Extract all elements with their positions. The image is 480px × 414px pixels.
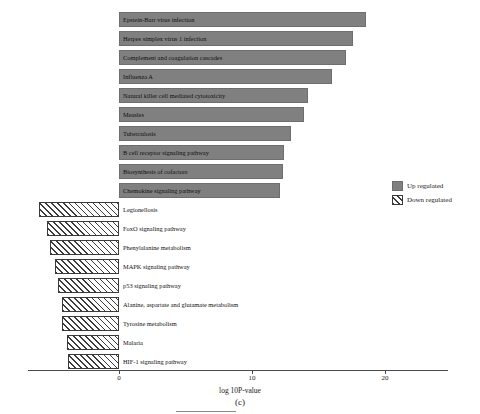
bar-label: Tuberculosis	[123, 126, 156, 141]
bar-label: HIF-1 signaling pathway	[123, 354, 187, 369]
bar-down-8	[68, 354, 119, 369]
legend-swatch-down-icon	[392, 195, 403, 205]
bar-down-4	[58, 278, 119, 293]
x-axis-title: log 10P-value	[0, 386, 480, 395]
bar-down-0	[39, 202, 119, 217]
legend-label-up: Up regulated	[407, 182, 443, 190]
bar-label: Phenylalanine metabolism	[123, 240, 191, 255]
bar-down-1	[47, 221, 119, 236]
bar-down-5	[62, 297, 119, 312]
bar-label: Measles	[123, 107, 144, 122]
x-tick-label-0: 0	[117, 374, 121, 382]
legend-item-up-regulated: Up regulated	[392, 180, 452, 192]
bar-label: Natural killer cell mediated cytotoxicit…	[123, 88, 225, 103]
bar-up-5	[119, 107, 304, 122]
x-tick-label-20: 20	[382, 374, 389, 382]
bar-down-7	[67, 335, 119, 350]
plot-area: Epstein-Barr virus infectionHerpes simpl…	[0, 0, 480, 414]
bar-down-2	[50, 240, 119, 255]
bar-label: Biosynthesis of cofactors	[123, 164, 188, 179]
legend-swatch-up-icon	[392, 181, 403, 191]
bar-label: FoxO signaling pathway	[123, 221, 186, 236]
bar-label: Herpes simplex virus 1 infection	[123, 31, 206, 46]
figure-caption: (c)	[0, 397, 480, 407]
bar-label: Malaria	[123, 335, 143, 350]
bar-label: Legionellosis	[123, 202, 157, 217]
kegg-enrichment-chart: Epstein-Barr virus infectionHerpes simpl…	[0, 0, 480, 414]
bar-label: Complement and coagulation cascades	[123, 50, 222, 65]
bar-down-6	[62, 316, 119, 331]
bar-label: MAPK signaling pathway	[123, 259, 190, 274]
bar-label: B cell receptor signaling pathway	[123, 145, 209, 160]
bar-label: Tyrosine metabolism	[123, 316, 177, 331]
bar-down-3	[55, 259, 119, 274]
legend: Up regulated Down regulated	[392, 180, 452, 208]
bar-label: Influenza A	[123, 69, 153, 84]
bar-label: Chemokine signaling pathway	[123, 183, 201, 198]
legend-label-down: Down regulated	[407, 196, 452, 204]
bar-label: p53 signaling pathway	[123, 278, 181, 293]
bar-label: Alanine, aspartate and glutamate metabol…	[123, 297, 238, 312]
x-tick-label-10: 10	[249, 374, 256, 382]
bar-label: Epstein-Barr virus infection	[123, 12, 194, 27]
legend-item-down-regulated: Down regulated	[392, 194, 452, 206]
caption-rule	[176, 411, 236, 412]
